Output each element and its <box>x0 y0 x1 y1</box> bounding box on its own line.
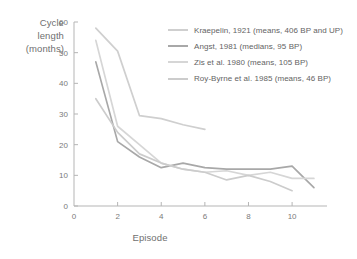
legend-swatch-icon <box>168 29 188 31</box>
chart-figure: Cycle length (months) 010203040506002468… <box>0 0 357 259</box>
legend-item[interactable]: Roy-Byrne et al. 1985 (means, 46 BP) <box>168 71 357 87</box>
legend-swatch-icon <box>168 78 188 80</box>
legend-swatch-icon <box>168 61 188 63</box>
y-tick-label: 50 <box>59 49 68 58</box>
series-line <box>96 99 292 191</box>
legend-item[interactable]: Zis et al. 1980 (means, 105 BP) <box>168 54 357 70</box>
x-tick-label: 0 <box>72 212 77 221</box>
y-tick-label: 20 <box>59 141 68 150</box>
legend-item[interactable]: Angst, 1981 (medians, 95 BP) <box>168 38 357 54</box>
legend: Kraepelin, 1921 (means, 406 BP and UP) A… <box>168 22 357 87</box>
x-axis-title: Episode <box>0 232 300 243</box>
y-tick-label: 10 <box>59 171 68 180</box>
x-tick-label: 6 <box>203 212 208 221</box>
legend-label: Roy-Byrne et al. 1985 (means, 46 BP) <box>194 74 331 83</box>
y-tick-label: 60 <box>59 18 68 27</box>
y-tick-label: 30 <box>59 110 68 119</box>
x-tick-label: 10 <box>288 212 297 221</box>
legend-item[interactable]: Kraepelin, 1921 (means, 406 BP and UP) <box>168 22 357 38</box>
x-tick-label: 4 <box>159 212 164 221</box>
legend-label: Kraepelin, 1921 (means, 406 BP and UP) <box>194 26 343 35</box>
legend-label: Zis et al. 1980 (means, 105 BP) <box>194 58 308 67</box>
legend-label: Angst, 1981 (medians, 95 BP) <box>194 42 302 51</box>
y-tick-label: 0 <box>64 202 69 211</box>
x-tick-label: 8 <box>246 212 251 221</box>
x-tick-label: 2 <box>115 212 120 221</box>
y-tick-label: 40 <box>59 79 68 88</box>
legend-swatch-icon <box>168 45 188 47</box>
